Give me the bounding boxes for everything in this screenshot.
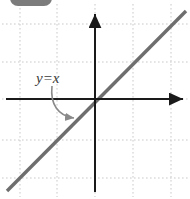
rounded-pill-shape [10,0,52,6]
line-y-equals-x [7,11,186,191]
curved-leader-arrow [52,86,74,118]
graph-figure: y=x [0,0,190,199]
equation-label: y=x [34,70,60,86]
graph-canvas: y=x [0,0,190,199]
